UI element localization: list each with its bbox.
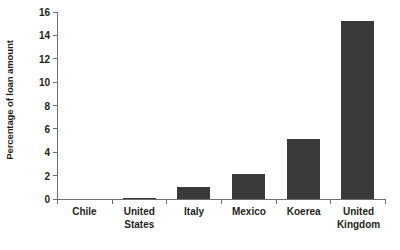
bar-series	[57, 12, 385, 199]
y-axis-tick-label: 4	[44, 148, 53, 158]
x-axis-labels: ChileUnited StatesItalyMexicoKoereaUnite…	[57, 205, 386, 231]
bar	[341, 21, 374, 199]
bar	[177, 187, 210, 199]
bar	[123, 198, 156, 200]
x-axis-tick-mark	[112, 199, 113, 204]
x-axis-tick-mark	[166, 199, 167, 204]
bar-chart: Percentage of loan amount 0246810121416 …	[0, 0, 400, 250]
y-axis-tick-label: 12	[39, 54, 53, 64]
y-axis-tick-label: 16	[39, 8, 53, 18]
x-axis-tick-label: Koerea	[276, 205, 331, 231]
bar-slot	[221, 12, 276, 199]
bar-slot	[276, 12, 331, 199]
y-axis-title: Percentage of loan amount	[2, 0, 16, 200]
bar-slot	[166, 12, 221, 199]
y-axis-tick-label: 2	[44, 171, 53, 181]
y-axis-tick-label: 6	[44, 124, 53, 134]
x-axis-tick-label: Chile	[57, 205, 112, 231]
x-axis-tick-label: United Kingdom	[331, 205, 386, 231]
y-axis-tick-label: 0	[44, 195, 53, 205]
y-axis-tick-label: 8	[44, 101, 53, 111]
bar	[287, 139, 320, 199]
x-axis-tick-mark	[276, 199, 277, 204]
plot-area: 0246810121416	[57, 12, 385, 199]
y-axis-tick-label: 14	[39, 31, 53, 41]
bar-slot	[330, 12, 385, 199]
bar-slot	[57, 12, 112, 199]
x-axis-tick-mark	[221, 199, 222, 204]
x-axis-tick-mark	[57, 199, 58, 204]
x-axis-tick-mark	[385, 199, 386, 204]
bar-slot	[112, 12, 167, 199]
bar	[232, 174, 265, 199]
y-axis-tick-label: 10	[39, 78, 53, 88]
x-axis-tick-label: Mexico	[221, 205, 276, 231]
x-axis-tick-mark	[330, 199, 331, 204]
x-axis-tick-label: United States	[112, 205, 167, 231]
x-axis-tick-label: Italy	[167, 205, 222, 231]
